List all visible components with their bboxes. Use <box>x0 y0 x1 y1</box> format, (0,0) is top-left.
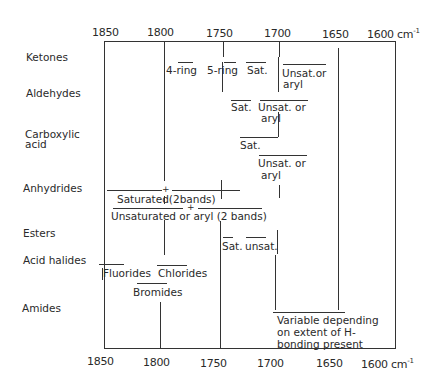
tick-1650-bottom: 1650 <box>316 357 343 370</box>
tick-1750-bottom: 1750 <box>200 357 227 370</box>
carboxylic-aryl: aryl <box>261 169 281 181</box>
amide-line2: on extent of H- <box>277 326 356 338</box>
carboxylic-unsat: Unsat. or <box>258 157 306 169</box>
ester-unsat: unsat. <box>245 240 278 252</box>
row-aldehydes: Aldehydes <box>26 88 81 99</box>
ketone-4ring: 4-ring <box>166 64 197 76</box>
tick-1800-bottom: 1800 <box>143 356 170 369</box>
halide-bromides: Bromides <box>133 286 182 298</box>
tick-1700-top: 1700 <box>264 27 291 40</box>
tick-1700-bottom: 1700 <box>257 357 284 370</box>
row-anhydrides: Anhydrides <box>23 183 82 194</box>
amide-line3: bonding present <box>277 338 363 350</box>
halide-chlorides: Chlorides <box>158 267 207 279</box>
ketone-sat: Sat. <box>247 64 268 76</box>
row-carboxylic-acid: acid <box>25 139 47 150</box>
row-acid-halides: Acid halides <box>23 255 86 266</box>
halide-fluorides: Fluorides <box>103 267 151 279</box>
tick-1850-bottom: 1850 <box>87 355 114 368</box>
row-ketones: Ketones <box>26 52 68 63</box>
ester-sat: Sat. <box>222 240 243 252</box>
row-amides: Amides <box>22 303 61 314</box>
aldehyde-sat: Sat. <box>231 101 252 113</box>
anhydride-unsaturated: Unsaturated or aryl (2 bands) <box>111 210 267 222</box>
tick-1800-top: 1800 <box>147 26 174 39</box>
tick-1600-top: 1600 cm-1 <box>367 27 420 41</box>
tick-1850-top: 1850 <box>92 26 119 39</box>
tick-1650-top: 1650 <box>322 28 349 41</box>
aldehyde-aryl: aryl <box>261 112 281 124</box>
tick-1600-bottom: 1600 cm-1 <box>361 357 414 371</box>
anhydride-saturated: Saturated(2bands) <box>117 193 216 205</box>
row-esters: Esters <box>23 228 55 239</box>
amide-line1: Variable depending <box>277 314 379 326</box>
ketone-aryl: aryl <box>283 78 303 90</box>
ketone-5ring: 5-ring <box>207 64 238 76</box>
carboxylic-sat: Sat. <box>240 139 261 151</box>
tick-1750-top: 1750 <box>206 27 233 40</box>
